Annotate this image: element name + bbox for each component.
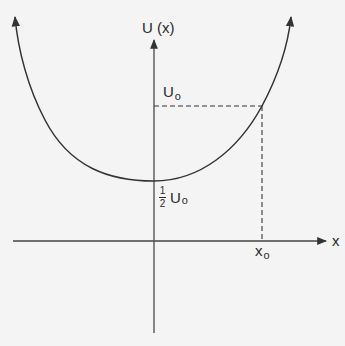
u0-sub: o <box>175 90 181 102</box>
min-sub: o <box>182 194 188 206</box>
fraction-numerator: 1 <box>160 186 166 196</box>
half-fraction: 1 2 <box>159 186 166 209</box>
u0-main: U <box>163 83 174 100</box>
x-axis-label: x <box>332 233 340 248</box>
potential-curve <box>15 17 154 181</box>
min-main: U <box>170 189 181 206</box>
u0-level-label: Uo <box>163 84 181 99</box>
y-axis-label: U (x) <box>142 20 175 35</box>
minimum-label: 1 2 Uo <box>159 186 188 209</box>
x0-sub: o <box>264 249 270 261</box>
fraction-denominator: 2 <box>160 199 166 209</box>
x0-main: x <box>255 242 263 259</box>
x0-label: xo <box>255 243 270 258</box>
potential-energy-diagram <box>0 0 345 346</box>
